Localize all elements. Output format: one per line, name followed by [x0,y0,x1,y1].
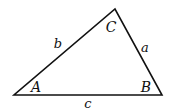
vertex-label-a: A [29,79,41,95]
vertex-label-b: B [140,79,151,95]
side-label-a: a [141,40,149,55]
triangle-diagram: A B C a b c [0,0,169,112]
side-label-c: c [84,96,92,111]
side-label-b: b [54,36,62,51]
vertex-label-c: C [106,19,117,35]
